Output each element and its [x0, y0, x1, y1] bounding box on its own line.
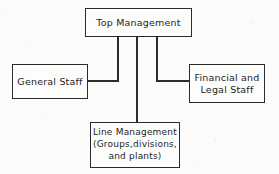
- connector-top-to-general-staff-stem: [117, 37, 119, 82]
- node-general-staff: General Staff: [12, 64, 88, 99]
- scan-speckle: [44, 116, 46, 117]
- scan-speckle: [214, 138, 216, 140]
- scan-speckle: [30, 44, 31, 46]
- node-general-staff-label-line-1: General Staff: [17, 76, 82, 87]
- scan-speckle: [196, 160, 199, 161]
- node-top-management: Top Management: [85, 8, 192, 37]
- org-chart-diagram: Top Management General Staff Financial a…: [0, 0, 279, 174]
- scan-speckle: [252, 22, 254, 24]
- node-financial-legal-staff: Financial and Legal Staff: [189, 64, 265, 103]
- connector-top-to-line-management: [136, 37, 138, 122]
- node-top-management-label-line-1: Top Management: [96, 17, 180, 28]
- node-line-management: Line Management (Groups,divisions, and p…: [90, 122, 180, 168]
- node-financial-legal-staff-label-line-2: Legal Staff: [201, 84, 254, 95]
- connector-top-to-general-staff-arm: [88, 80, 118, 82]
- node-line-management-label-line-2: (Groups,divisions,: [93, 139, 177, 151]
- node-financial-legal-staff-label-line-1: Financial and: [194, 72, 259, 83]
- scan-speckle: [6, 14, 8, 15]
- connector-top-to-financial-legal-stem: [156, 37, 158, 82]
- node-line-management-label-line-1: Line Management: [93, 127, 177, 139]
- node-line-management-label-line-3: and plants): [108, 151, 161, 163]
- connector-top-to-financial-legal-arm: [156, 80, 189, 82]
